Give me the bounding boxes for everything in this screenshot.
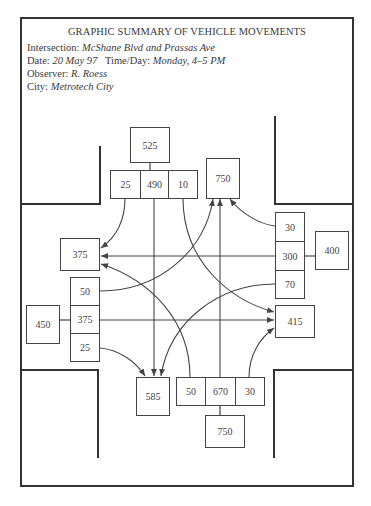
movement-arrows [100, 198, 275, 377]
west-total-out-box: 375 [60, 238, 100, 271]
east-left-arrow [161, 284, 275, 376]
south-through-box: 670 [205, 377, 236, 406]
south-left-box: 50 [176, 377, 206, 406]
south-right-box: 30 [235, 377, 265, 406]
north-through-box: 490 [140, 170, 169, 199]
north-left-box: 25 [110, 170, 141, 199]
east-through-box: 300 [275, 241, 305, 271]
south-total-out-box: 585 [136, 377, 170, 416]
east-total-in-box: 400 [315, 231, 349, 270]
east-right-box: 30 [275, 212, 305, 242]
west-right-arrow [100, 348, 145, 376]
west-total-in-box: 450 [26, 305, 60, 344]
south-total-in-box: 750 [205, 415, 245, 448]
west-right-box: 25 [70, 333, 100, 362]
west-left-box: 50 [70, 277, 100, 306]
north-left-arrow [101, 198, 125, 248]
north-total-out-box: 750 [206, 158, 240, 199]
north-right-box: 10 [168, 170, 198, 199]
east-right-arrow [230, 199, 275, 226]
west-left-arrow [100, 199, 213, 291]
north-total-in-box: 525 [130, 127, 170, 163]
east-total-out-box: 415 [275, 305, 315, 338]
west-through-box: 375 [70, 305, 100, 334]
south-right-arrow [249, 328, 274, 377]
east-left-box: 70 [275, 270, 305, 299]
north-right-arrow [183, 198, 274, 312]
